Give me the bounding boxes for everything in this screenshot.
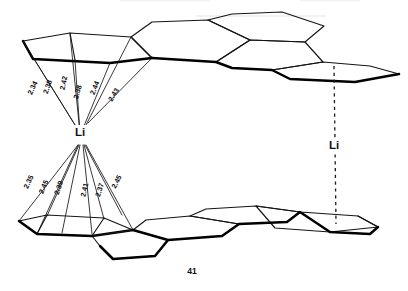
- upper-hexagon-2: [131, 20, 250, 62]
- lower-bond-labels: 2.35 2.45 2.39 2.41 2.37 2.45: [21, 173, 123, 197]
- upper-graphene-sheet: [23, 12, 399, 82]
- bond-label-lower-4: 2.41: [78, 182, 90, 198]
- lower-bond-3: [47, 145, 79, 216]
- upper-bond-labels: 2.34 2.38 2.42 2.38 2.44 2.43: [25, 75, 121, 103]
- upper-hexagon-left-front-edge: [23, 41, 152, 63]
- atom-label-li-right: Li: [329, 139, 339, 151]
- bond-label-lower-6: 2.45: [109, 173, 124, 190]
- bond-label-lower-1: 2.35: [21, 173, 35, 190]
- lower-sheet-front-edge: [133, 212, 378, 240]
- upper-hexagon-4: [216, 40, 323, 70]
- lower-hexagon-fold-left: [37, 215, 47, 234]
- bond-label-upper-2: 2.38: [41, 79, 54, 95]
- page-number: 41: [187, 266, 197, 276]
- bond-label-upper-6: 2.43: [106, 86, 121, 103]
- figure-canvas: 2.34 2.38 2.42 2.38 2.44 2.43 2.35 2.45 …: [0, 0, 408, 291]
- atom-label-li-left: Li: [75, 126, 85, 138]
- lower-bond-4: [62, 145, 80, 233]
- upper-bond-3: [70, 34, 80, 133]
- upper-li-bond-fan: [23, 34, 152, 133]
- bond-label-upper-3: 2.42: [58, 75, 70, 91]
- bond-label-lower-3: 2.39: [52, 180, 65, 196]
- lower-hexagon-5: [256, 206, 378, 232]
- bond-label-upper-4: 2.38: [71, 84, 84, 100]
- bond-label-upper-1: 2.34: [25, 79, 39, 96]
- structure-diagram: 2.34 2.38 2.42 2.38 2.44 2.43 2.35 2.45 …: [0, 0, 408, 291]
- bond-label-upper-5: 2.44: [88, 80, 102, 96]
- upper-bond-5: [84, 63, 110, 126]
- scan-artifacts: [120, 0, 360, 17]
- lower-hexagon-2-front-edge: [100, 240, 168, 259]
- bond-label-lower-2: 2.45: [36, 179, 50, 195]
- atom-labels: Li Li: [70, 125, 344, 153]
- lower-graphene-sheet: [19, 206, 378, 259]
